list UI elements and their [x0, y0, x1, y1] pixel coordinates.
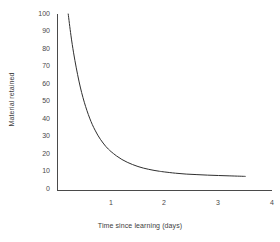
y-tick-label: 30 [28, 132, 50, 140]
y-tick-label: 80 [28, 45, 50, 53]
y-tick-label: 20 [28, 150, 50, 158]
y-tick-label: 40 [28, 115, 50, 123]
chart-figure: 100 90 80 70 60 50 40 30 20 10 0 1 2 3 4… [0, 0, 280, 242]
y-tick-label: 50 [28, 97, 50, 105]
y-tick-label: 60 [28, 80, 50, 88]
y-axis-title: Material retained [8, 62, 15, 138]
x-tick-label: 1 [104, 199, 118, 207]
y-tick-label: 100 [28, 10, 50, 18]
data-curve-material-retained [68, 14, 245, 176]
x-tick-label: 2 [157, 199, 171, 207]
y-tick-label: 10 [28, 167, 50, 175]
x-axis-title: Time since learning (days) [0, 222, 280, 229]
x-tick-label: 4 [265, 199, 279, 207]
y-tick-label: 0 [28, 185, 50, 193]
y-tick-label: 70 [28, 62, 50, 70]
y-tick-label: 90 [28, 27, 50, 35]
x-tick-label: 3 [211, 199, 225, 207]
